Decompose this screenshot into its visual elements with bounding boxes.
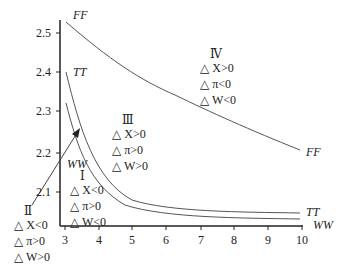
ff-curve <box>66 22 300 150</box>
x-tick-label: 10 <box>296 233 308 247</box>
region-line: △ π>0 <box>70 198 106 214</box>
region-ii: Ⅱ △ X<0 △ π>0 △ W>0 <box>14 205 50 265</box>
region-line: △ X<0 <box>70 182 106 198</box>
ff-label-right: FF <box>306 145 321 159</box>
ff-label-top: FF <box>73 8 88 22</box>
x-tick-label: 6 <box>163 233 169 247</box>
region-line: △ X>0 <box>200 60 236 76</box>
region-line: △ W<0 <box>70 214 106 230</box>
region-line: △ W>0 <box>112 158 148 174</box>
region-line: △ W<0 <box>200 92 236 108</box>
y-tick-label: 2.4 <box>36 65 51 79</box>
region-numeral: Ⅲ <box>112 114 148 126</box>
region-iii: Ⅲ △ X>0 △ π>0 △ W>0 <box>112 114 148 174</box>
x-tick-label: 4 <box>96 233 102 247</box>
tt-label-right: TT <box>306 205 319 219</box>
x-tick-label: 9 <box>265 233 271 247</box>
region-numeral: Ⅰ <box>70 170 106 182</box>
y-tick-label: 2.3 <box>36 104 51 118</box>
region-line: △ X>0 <box>112 126 148 142</box>
y-tick-label: 2.2 <box>36 146 51 160</box>
x-tick-label: 5 <box>129 233 135 247</box>
tt-label-top: TT <box>73 65 86 79</box>
y-tick-label: 2.5 <box>36 26 51 40</box>
region-line: △ X<0 <box>14 217 50 233</box>
ww-label-right: WW <box>313 218 333 232</box>
region-numeral: Ⅳ <box>200 48 236 60</box>
region-iv: Ⅳ △ X>0 △ π<0 △ W<0 <box>200 48 236 108</box>
region-i: Ⅰ △ X<0 △ π>0 △ W<0 <box>70 170 106 230</box>
x-tick-label: 8 <box>231 233 237 247</box>
region-line: △ W>0 <box>14 249 50 265</box>
region-line: △ π>0 <box>14 233 50 249</box>
chart-canvas <box>0 0 340 268</box>
region-line: △ π>0 <box>112 142 148 158</box>
x-tick-label: 7 <box>198 233 204 247</box>
x-tick-label: 3 <box>62 233 68 247</box>
region-numeral: Ⅱ <box>14 205 50 217</box>
y-tick-label: 2.1 <box>36 185 51 199</box>
region-line: △ π<0 <box>200 76 236 92</box>
